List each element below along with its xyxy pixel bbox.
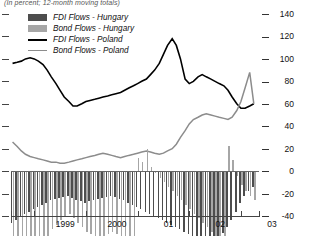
y-tick-left-140 (2, 14, 9, 15)
bar-bond-hungary (95, 171, 96, 236)
x-tick-label-1999: 1999 (56, 219, 75, 229)
bar-bond-hungary (241, 171, 242, 184)
x-tick-1999 (34, 211, 35, 217)
y-tick-value: 60 (272, 99, 294, 109)
bar-fdi-hungary (149, 171, 150, 214)
bar-bond-hungary (73, 171, 74, 218)
bar-bond-hungary (129, 171, 130, 236)
bar-fdi-hungary (145, 171, 146, 211)
x-tick-label-03: 03 (267, 219, 276, 229)
bar-bond-hungary (26, 171, 27, 236)
bar-bond-hungary (198, 171, 199, 218)
x-axis-line (11, 216, 259, 217)
bar-bond-hungary (43, 171, 44, 236)
x-tick-label-01: 01 (164, 219, 173, 229)
y-tick-dash (262, 37, 269, 38)
y-tick-dash (262, 82, 269, 83)
bar-bond-hungary (64, 171, 65, 216)
y-tick-left-60 (2, 104, 9, 105)
y-tick-label-40: 40 (262, 121, 294, 131)
y-tick-value: 20 (272, 144, 294, 154)
bar-bond-hungary (134, 171, 135, 236)
x-axis-right-cap (259, 211, 260, 217)
bar-bond-hungary (60, 171, 61, 220)
bar-bond-hungary (82, 171, 83, 227)
bar-bond-hungary (168, 171, 169, 187)
bar-bond-hungary (77, 171, 78, 223)
bar-bond-hungary (185, 171, 186, 205)
y-tick-dash (262, 149, 269, 150)
y-tick-left-120 (2, 36, 9, 37)
bar-bond-hungary (34, 171, 35, 236)
bar-bond-hungary (147, 149, 148, 171)
y-tick-dash (262, 194, 269, 195)
bar-bond-hungary (202, 171, 203, 223)
bar-bond-hungary (207, 171, 208, 227)
y-tick-left-80 (2, 81, 9, 82)
x-tick-2000 (86, 211, 87, 217)
bar-fdi-hungary (230, 171, 231, 220)
bar-bond-hungary (194, 171, 195, 214)
x-tick-label-2000: 2000 (107, 219, 126, 229)
y-tick-value: 120 (272, 31, 294, 41)
y-tick-label--20: -20 (262, 189, 294, 199)
bar-bond-hungary (164, 171, 165, 182)
bar-bond-hungary (254, 171, 255, 200)
y-tick-left-20 (2, 149, 9, 150)
x-axis-left-cap (11, 211, 12, 217)
bar-fdi-hungary (153, 171, 154, 216)
y-tick-value: 0 (272, 166, 294, 176)
bar-bond-hungary (103, 171, 104, 236)
bar-bond-hungary (30, 171, 31, 236)
bar-bond-hungary (211, 171, 212, 232)
y-tick-dash (262, 104, 269, 105)
bar-bond-hungary (13, 171, 14, 236)
bar-fdi-hungary (136, 171, 137, 207)
y-tick-left-100 (2, 59, 9, 60)
bar-bond-hungary (90, 171, 91, 234)
bar-fdi-hungary (235, 171, 236, 211)
plot-area (11, 14, 259, 216)
y-tick-value: 100 (272, 54, 294, 64)
bar-bond-hungary (138, 158, 139, 171)
bar-fdi-hungary (140, 171, 141, 209)
y-tick-label-20: 20 (262, 144, 294, 154)
bar-bond-hungary (69, 171, 70, 214)
bar-bond-hungary (181, 171, 182, 200)
y-tick-dash (262, 171, 269, 172)
bar-bond-hungary (22, 171, 23, 236)
bar-bond-hungary (250, 171, 251, 196)
x-tick-label-02: 02 (216, 219, 225, 229)
bar-bond-hungary (17, 171, 18, 236)
bar-bond-hungary (52, 171, 53, 229)
x-tick-01 (138, 211, 139, 217)
y-tick-label-80: 80 (262, 76, 294, 86)
bar-bond-hungary (232, 160, 233, 171)
bar-bond-hungary (228, 146, 229, 171)
x-tick-02 (189, 211, 190, 217)
y-tick-dash (262, 216, 269, 217)
line-fdi-poland (13, 39, 254, 109)
bar-bond-hungary (142, 162, 143, 171)
bar-bond-hungary (47, 171, 48, 236)
zero-baseline (11, 171, 259, 172)
y-tick-label-100: 100 (262, 54, 294, 64)
y-tick-label-120: 120 (262, 31, 294, 41)
bar-bond-hungary (39, 171, 40, 236)
bar-bond-hungary (99, 171, 100, 236)
fdi-bond-flows-chart: (In percent; 12-month moving totals) FDI… (0, 0, 312, 236)
y-tick-dash (262, 59, 269, 60)
bar-fdi-hungary (226, 171, 227, 227)
bar-bond-hungary (177, 171, 178, 196)
bar-fdi-hungary (158, 171, 159, 218)
y-tick-label-60: 60 (262, 99, 294, 109)
bar-bond-hungary (189, 171, 190, 209)
y-tick-value: 80 (272, 76, 294, 86)
bar-bond-hungary (160, 171, 161, 178)
y-tick-left--20 (2, 194, 9, 195)
y-tick-label-0: 0 (262, 166, 294, 176)
y-tick-left-40 (2, 126, 9, 127)
y-tick-dash (262, 14, 269, 15)
bar-bond-hungary (245, 171, 246, 191)
chart-subtitle: (In percent; 12-month moving totals) (4, 0, 120, 6)
